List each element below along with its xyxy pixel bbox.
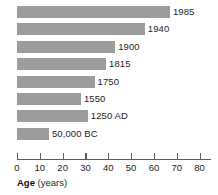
x-tick-label: 0: [14, 162, 19, 174]
bar-50000-bc: [17, 128, 49, 140]
x-tick-mark: [154, 153, 155, 160]
x-tick-label: 10: [35, 162, 46, 174]
x-tick-mark: [85, 153, 86, 160]
bar-label-1900: 1900: [118, 39, 140, 54]
bar-row: 1550: [0, 91, 218, 108]
bar-label-1750: 1750: [98, 74, 120, 89]
bar-row: 1985: [0, 4, 218, 21]
x-axis-title-main: Age: [17, 177, 35, 188]
x-tick-mark: [200, 153, 201, 160]
bar-label-1550: 1550: [84, 91, 106, 106]
bar-1985: [17, 6, 170, 18]
x-tick-mark: [131, 153, 132, 160]
x-tick-mark: [177, 153, 178, 160]
x-tick-label: 80: [194, 162, 205, 174]
bar-row: 1815: [0, 56, 218, 73]
x-axis-title: Age (years): [17, 177, 67, 189]
x-tick-label: 50: [126, 162, 137, 174]
bar-chart: 1985 1940 1900 1815 1750 1550 1250 AD: [0, 0, 218, 195]
x-tick-mark: [40, 153, 41, 160]
plot-area: 1985 1940 1900 1815 1750 1550 1250 AD: [0, 4, 218, 152]
x-axis: 01020304050607080: [0, 151, 218, 175]
bar-row: 1940: [0, 21, 218, 38]
x-tick-label: 70: [171, 162, 182, 174]
x-tick-mark: [17, 153, 18, 160]
bar-1550: [17, 93, 81, 105]
bar-label-1250-ad: 1250 AD: [91, 108, 128, 123]
bar-1250-ad: [17, 110, 88, 122]
bar-label-1815: 1815: [109, 56, 131, 71]
bar-1900: [17, 41, 115, 53]
bar-1815: [17, 58, 106, 70]
bar-row: 1900: [0, 39, 218, 56]
x-tick-label: 20: [57, 162, 68, 174]
x-axis-title-unit: (years): [38, 177, 68, 188]
x-tick-label: 40: [103, 162, 114, 174]
bar-row: 1250 AD: [0, 108, 218, 125]
bar-label-1940: 1940: [148, 21, 170, 36]
x-tick-label: 30: [80, 162, 91, 174]
x-tick-mark: [63, 153, 64, 160]
x-tick-mark: [108, 153, 109, 160]
x-axis-line: [17, 159, 211, 160]
bar-1750: [17, 76, 95, 88]
bar-1940: [17, 23, 145, 35]
bar-label-1985: 1985: [173, 4, 195, 19]
bar-row: 50,000 BC: [0, 126, 218, 143]
bar-row: 1750: [0, 74, 218, 91]
x-tick-label: 60: [149, 162, 160, 174]
bar-label-50000-bc: 50,000 BC: [52, 126, 98, 141]
